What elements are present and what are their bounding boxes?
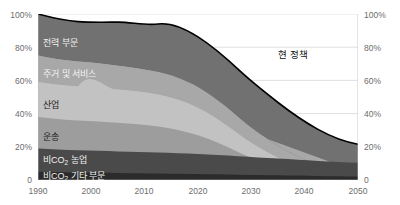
x-axis-tick-2050: 2050 (338, 186, 378, 196)
series-label-residential-services: 주거 및 서비스 (43, 67, 96, 80)
x-axis-tick-2020: 2020 (178, 186, 218, 196)
y-axis-right-tick-40: 40% (364, 109, 381, 119)
other-label-prefix: 비CO (43, 171, 65, 181)
series-label-industry: 산업 (43, 98, 59, 111)
y-axis-right-tick-0: 0 (364, 175, 369, 185)
current-policy-line-label: 현 정책 (278, 47, 308, 61)
agri-label-subscript: 2 (65, 159, 69, 166)
x-axis-tick-2030: 2030 (231, 186, 271, 196)
x-axis-tick-2040: 2040 (284, 186, 324, 196)
y-axis-right-tick-60: 60% (364, 76, 381, 86)
series-label-transport: 운송 (43, 130, 59, 143)
y-axis-left-tick-40: 40% (0, 109, 32, 119)
agri-label-prefix: 비CO (43, 155, 65, 165)
chart-container: 100% 80% 60% 40% 20% 0 100% 80% 60% 40% … (0, 0, 400, 205)
x-axis-tick-1990: 1990 (18, 186, 58, 196)
y-axis-left-tick-0: 0 (0, 175, 32, 185)
y-axis-left-tick-100: 100% (0, 10, 32, 20)
y-axis-right-tick-100: 100% (364, 10, 386, 20)
series-label-power-sector: 전력 부문 (43, 36, 78, 49)
y-axis-left-tick-60: 60% (0, 76, 32, 86)
plot-area: 전력 부문 주거 및 서비스 산업 운송 비CO2 농업 비CO2 기타 부문 … (38, 14, 358, 180)
x-axis-tick-2000: 2000 (71, 186, 111, 196)
series-label-non-co2-other: 비CO2 기타 부문 (43, 169, 105, 182)
x-axis-tick-2010: 2010 (124, 186, 164, 196)
agri-label-suffix: 농업 (68, 155, 87, 165)
y-axis-left-tick-20: 20% (0, 142, 32, 152)
series-label-non-co2-agriculture: 비CO2 농업 (43, 153, 87, 166)
other-label-suffix: 기타 부문 (68, 171, 105, 181)
y-axis-left-tick-80: 80% (0, 43, 32, 53)
y-axis-right-tick-20: 20% (364, 142, 381, 152)
y-axis-right-tick-80: 80% (364, 43, 381, 53)
other-label-subscript: 2 (65, 175, 69, 182)
